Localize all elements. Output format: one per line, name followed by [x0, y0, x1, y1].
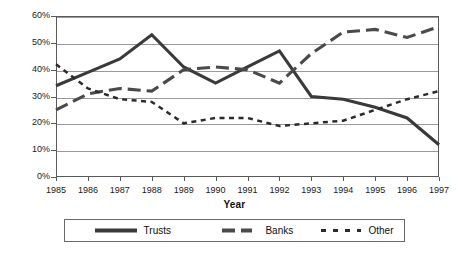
legend-swatch-trusts-icon	[95, 225, 137, 236]
x-axis-tick-mark	[56, 177, 57, 181]
y-axis-tick-label: 20%	[16, 118, 50, 127]
x-axis-tick-mark	[184, 177, 185, 181]
x-axis-tick-mark	[248, 177, 249, 181]
x-axis-tick-label: 1992	[262, 185, 296, 195]
x-axis-tick-mark	[88, 177, 89, 181]
x-axis-tick-label: 1989	[167, 185, 201, 195]
legend-label-banks: Banks	[265, 225, 293, 236]
y-axis-tick-label: 10%	[16, 145, 50, 154]
y-axis-tick-label: 0%	[16, 172, 50, 181]
x-axis-tick-label: 1993	[294, 185, 328, 195]
x-axis-tick-label: 1986	[71, 185, 105, 195]
x-axis-tick-mark	[343, 177, 344, 181]
y-axis-tick-label: 60%	[16, 11, 50, 20]
chart-legend: Trusts Banks Other	[64, 219, 405, 242]
x-axis-tick-label: 1994	[326, 185, 360, 195]
legend-swatch-banks-icon	[216, 225, 258, 236]
x-axis-tick-label: 1988	[135, 185, 169, 195]
legend-label-other: Other	[369, 225, 394, 236]
y-axis-tick-label: 30%	[16, 92, 50, 101]
y-axis-tick-label: 50%	[16, 38, 50, 47]
x-axis-tick-mark	[439, 177, 440, 181]
series-line-other	[56, 64, 439, 126]
legend-item-trusts: Trusts	[65, 220, 201, 241]
x-axis-tick-label: 1997	[422, 185, 456, 195]
x-axis-tick-label: 1990	[199, 185, 233, 195]
y-axis-tick-label: 40%	[16, 65, 50, 74]
x-axis-tick-mark	[216, 177, 217, 181]
x-axis-tick-label: 1985	[39, 185, 73, 195]
x-axis-tick-mark	[311, 177, 312, 181]
x-axis-tick-mark	[152, 177, 153, 181]
chart-container: 0%10%20%30%40%50%60% 1985198619871988198…	[0, 0, 469, 253]
legend-item-other: Other	[309, 220, 404, 241]
x-axis-tick-mark	[375, 177, 376, 181]
legend-swatch-other-icon	[320, 225, 362, 236]
x-axis-tick-label: 1996	[390, 185, 424, 195]
x-axis-tick-mark	[407, 177, 408, 181]
x-axis-title: Year	[0, 199, 469, 210]
legend-item-banks: Banks	[201, 220, 309, 241]
x-axis-tick-label: 1987	[103, 185, 137, 195]
legend-label-trusts: Trusts	[144, 225, 171, 236]
x-axis-tick-label: 1991	[231, 185, 265, 195]
x-axis-tick-mark	[279, 177, 280, 181]
x-axis-tick-mark	[120, 177, 121, 181]
series-layer	[56, 16, 439, 177]
x-axis-tick-label: 1995	[358, 185, 392, 195]
